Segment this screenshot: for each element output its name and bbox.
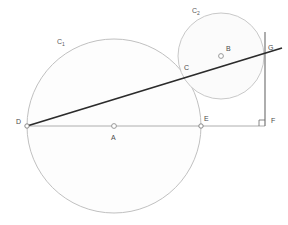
geometry-canvas: C1 C2 A B C D E F G — [0, 0, 288, 225]
point-marker-e — [199, 124, 203, 128]
circle-label-c2: C2 — [192, 7, 200, 16]
point-marker-a — [112, 124, 117, 129]
point-marker-d — [25, 124, 29, 128]
point-label-d: D — [16, 118, 21, 125]
point-label-b: B — [226, 45, 231, 52]
geometry-diagram: C1 C2 A B C D E F G — [0, 0, 288, 225]
point-label-f: F — [271, 117, 275, 124]
circle-label-c1: C1 — [57, 38, 65, 47]
point-label-g: G — [268, 44, 273, 51]
point-marker-b — [219, 54, 224, 59]
right-angle-marker — [259, 120, 265, 126]
point-label-e: E — [204, 115, 209, 122]
point-label-a: A — [111, 134, 116, 141]
point-label-c: C — [184, 64, 189, 71]
